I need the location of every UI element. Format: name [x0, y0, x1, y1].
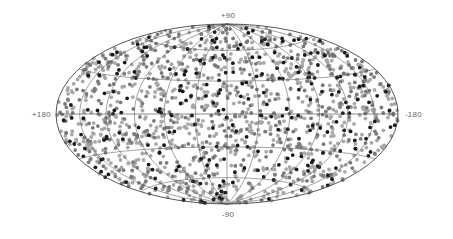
label-left: +180 — [32, 110, 51, 119]
label-right: -180 — [405, 110, 422, 119]
sky-map — [0, 0, 453, 239]
label-bottom: -90 — [222, 210, 234, 219]
label-top: +90 — [221, 11, 235, 20]
coordinate-grid — [56, 24, 398, 204]
